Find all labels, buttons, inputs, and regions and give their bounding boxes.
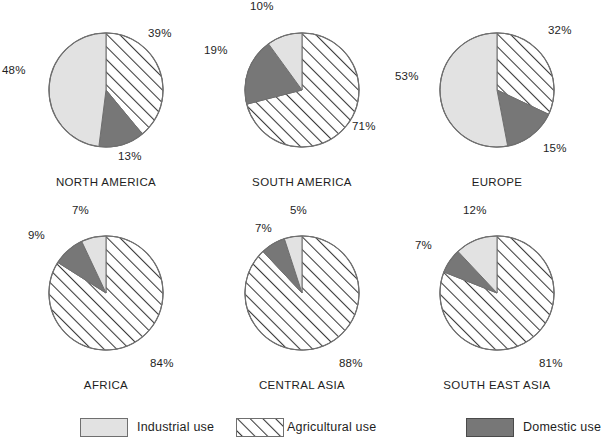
slice-label-domestic: 13% — [118, 150, 142, 162]
pie-cell-south-east-asia: SOUTH EAST ASIA 81% 7% 12% — [401, 205, 593, 405]
legend-item-domestic: Domestic use — [466, 412, 601, 442]
legend-item-agricultural: Agricultural use — [236, 412, 376, 442]
pie-caption-europe: EUROPE — [401, 176, 593, 188]
slice-label-industrial: 12% — [463, 204, 487, 216]
legend-label-domestic: Domestic use — [523, 420, 601, 434]
pie-chart-north-america — [10, 2, 202, 177]
pie-svg-south-america — [206, 2, 398, 177]
slice-label-agricultural: 84% — [150, 357, 174, 369]
pie-cell-africa: AFRICA 84% 9% 7% — [10, 205, 202, 405]
pie-svg-north-america — [10, 2, 202, 177]
pie-cell-central-asia: CENTRAL ASIA 88% 7% 5% — [206, 205, 398, 405]
slice-label-domestic: 7% — [255, 222, 272, 234]
pie-caption-central-asia: CENTRAL ASIA — [206, 379, 398, 391]
pie-caption-africa: AFRICA — [10, 379, 202, 391]
legend-label-agricultural: Agricultural use — [287, 420, 376, 434]
pie-caption-north-america: NORTH AMERICA — [10, 176, 202, 188]
pie-svg-south-east-asia — [401, 205, 593, 380]
agricultural-swatch-icon — [236, 418, 284, 437]
slice-label-domestic: 15% — [543, 142, 567, 154]
domestic-swatch-icon — [466, 418, 514, 437]
slice-label-industrial: 53% — [395, 70, 419, 82]
slice-label-domestic: 19% — [204, 44, 228, 56]
pie-cell-north-america: NORTH AMERICA 39% 13% 48% — [10, 2, 202, 202]
pie-slice-industrial — [49, 33, 106, 147]
slice-label-agricultural: 39% — [148, 27, 172, 39]
pie-svg-central-asia — [206, 205, 398, 380]
pie-cell-europe: EUROPE 32% 15% 53% — [401, 2, 593, 202]
slice-label-agricultural: 88% — [339, 357, 363, 369]
industrial-swatch-icon — [80, 418, 128, 437]
pie-chart-south-east-asia — [401, 205, 593, 380]
slice-label-domestic: 7% — [415, 239, 432, 251]
legend: Industrial use Agricultural use Domestic… — [0, 412, 578, 447]
legend-item-industrial: Industrial use — [80, 412, 214, 442]
slice-label-domestic: 9% — [28, 229, 45, 241]
slice-label-industrial: 7% — [72, 204, 89, 216]
legend-label-industrial: Industrial use — [137, 420, 214, 434]
slice-label-agricultural: 71% — [352, 120, 376, 132]
slice-label-industrial: 48% — [2, 64, 26, 76]
pie-cell-south-america: SOUTH AMERICA 71% 19% 10% — [206, 2, 398, 202]
slice-label-industrial: 10% — [250, 0, 274, 12]
slice-label-agricultural: 81% — [539, 357, 563, 369]
pie-caption-south-america: SOUTH AMERICA — [206, 176, 398, 188]
corner-mark — [2, 432, 14, 442]
pie-chart-central-asia — [206, 205, 398, 380]
pie-caption-south-east-asia: SOUTH EAST ASIA — [401, 379, 593, 391]
slice-label-industrial: 5% — [290, 204, 307, 216]
slice-label-agricultural: 32% — [548, 24, 572, 36]
pie-chart-south-america — [206, 2, 398, 177]
